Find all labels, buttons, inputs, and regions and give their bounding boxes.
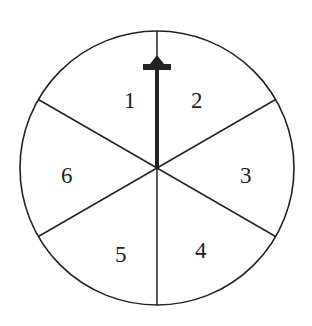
section-label-2: 2 xyxy=(191,88,203,113)
section-label-1: 1 xyxy=(124,88,136,113)
section-label-5: 5 xyxy=(115,242,127,267)
section-label-3: 3 xyxy=(240,163,252,188)
section-label-4: 4 xyxy=(195,238,207,263)
spinner-diagram: 1 2 3 4 5 6 xyxy=(0,0,312,326)
section-label-6: 6 xyxy=(61,163,73,188)
